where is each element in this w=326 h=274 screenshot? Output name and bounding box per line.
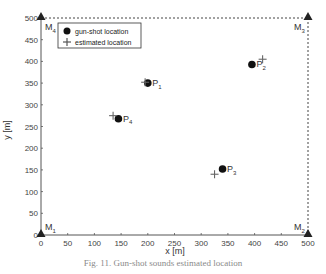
legend-circle-icon bbox=[64, 28, 71, 35]
gunshot-point-p2 bbox=[248, 61, 256, 69]
point-label: P3 bbox=[227, 164, 237, 176]
boundary-dashed bbox=[41, 18, 308, 235]
figure-caption: Fig. 11. Gun-shot sounds estimated locat… bbox=[0, 258, 326, 268]
x-tick-label: 100 bbox=[88, 239, 102, 248]
y-tick-label: 200 bbox=[25, 144, 39, 153]
point-label: M4 bbox=[45, 22, 57, 34]
x-tick-label: 350 bbox=[221, 239, 235, 248]
y-tick-label: 300 bbox=[25, 101, 39, 110]
y-tick-label: 350 bbox=[25, 79, 39, 88]
y-tick-label: 50 bbox=[29, 209, 38, 218]
point-label: P4 bbox=[123, 114, 133, 126]
point-label: P1 bbox=[152, 78, 162, 90]
scatter-plot: 0501001502002503003504004505000501001502… bbox=[0, 0, 326, 274]
x-tick-label: 300 bbox=[195, 239, 209, 248]
x-tick-label: 200 bbox=[141, 239, 155, 248]
y-tick-label: 100 bbox=[25, 188, 39, 197]
microphone-triangle-icon bbox=[304, 229, 313, 237]
y-tick-label: 150 bbox=[25, 166, 39, 175]
legend: gun-shot location estimated location bbox=[58, 23, 141, 48]
point-label: P2 bbox=[256, 59, 266, 71]
legend-item-estimated: estimated location bbox=[75, 39, 132, 46]
plus-icon bbox=[211, 170, 219, 178]
x-tick-label: 450 bbox=[275, 239, 289, 248]
point-label: M2 bbox=[294, 222, 306, 234]
legend-item-gunshot: gun-shot location bbox=[75, 28, 128, 36]
point-label: M1 bbox=[45, 222, 57, 234]
gunshot-point-p3 bbox=[219, 165, 227, 173]
axes: 0501001502002503003504004505000501001502… bbox=[25, 14, 316, 248]
microphone-triangle-icon bbox=[304, 12, 313, 20]
x-tick-label: 150 bbox=[114, 239, 128, 248]
x-tick-label: 50 bbox=[63, 239, 72, 248]
x-axis-label: x [m] bbox=[165, 246, 185, 256]
x-tick-label: 400 bbox=[248, 239, 262, 248]
y-tick-label: 500 bbox=[25, 14, 39, 23]
y-tick-label: 450 bbox=[25, 36, 39, 45]
y-tick-label: 400 bbox=[25, 57, 39, 66]
y-tick-label: 250 bbox=[25, 123, 39, 132]
x-tick-label: 0 bbox=[39, 239, 44, 248]
point-label: M3 bbox=[294, 22, 306, 34]
y-axis-label: y [m] bbox=[2, 120, 12, 140]
x-tick-label: 500 bbox=[301, 239, 315, 248]
